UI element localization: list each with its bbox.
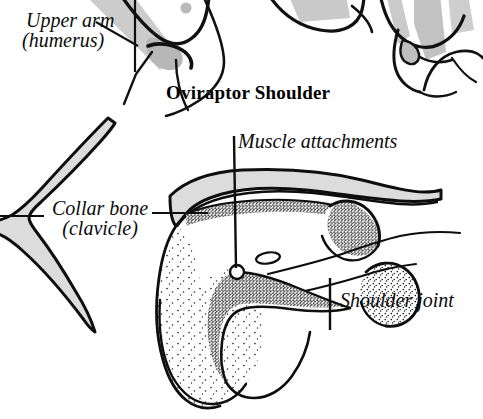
- label-muscle-attachments-line1: Muscle attachments: [238, 130, 397, 152]
- oviraptor-shoulder-figure: Upper arm (humerus) Oviraptor Shoulder M…: [0, 0, 483, 419]
- label-collar-bone-line1: Collar bone: [52, 197, 148, 219]
- label-muscle-attachments: Muscle attachments: [238, 131, 397, 151]
- label-upper-arm-line1: Upper arm: [26, 9, 114, 31]
- label-upper-arm: Upper arm (humerus): [26, 10, 114, 51]
- label-shoulder-joint-line1: Shoulder joint: [340, 289, 454, 311]
- label-shoulder-joint: Shoulder joint: [340, 290, 454, 310]
- figure-title: Oviraptor Shoulder: [166, 82, 330, 104]
- label-upper-arm-line2: (humerus): [22, 30, 114, 50]
- label-collar-bone-line2: (clavicle): [52, 218, 148, 238]
- label-collar-bone: Collar bone (clavicle): [52, 198, 148, 239]
